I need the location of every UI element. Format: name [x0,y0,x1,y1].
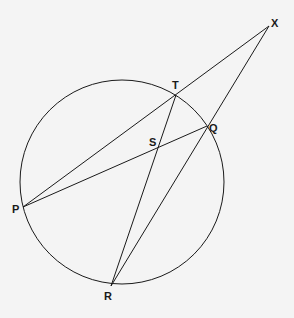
label-r: R [104,290,112,302]
label-t: T [172,79,179,91]
label-s: S [149,136,156,148]
label-p: P [12,203,19,215]
label-x: X [271,17,279,29]
segment-rt [111,95,176,286]
segment-pq [23,126,207,207]
geometry-diagram: X T Q S P R [0,0,294,318]
point-labels: X T Q S P R [12,17,279,302]
segment-px [23,26,269,207]
line-segments [23,26,269,286]
label-q: Q [209,122,218,134]
segment-rx [111,26,269,286]
